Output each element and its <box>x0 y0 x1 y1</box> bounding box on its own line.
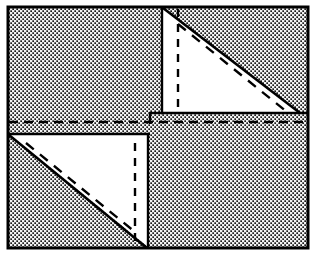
figure-container <box>0 0 316 256</box>
outer-rectangle-stipple-fill <box>8 7 308 248</box>
geometric-figure <box>0 0 316 256</box>
